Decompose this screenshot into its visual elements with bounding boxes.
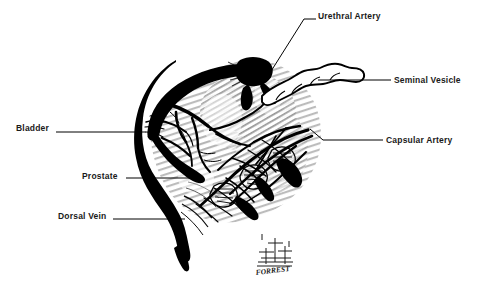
artist-signature-logo [257,234,293,266]
label-urethral-artery: Urethral Artery [318,12,381,21]
label-seminal-vesicle: Seminal Vesicle [394,76,461,85]
label-dorsal-vein: Dorsal Vein [58,212,107,221]
label-bladder: Bladder [16,124,49,133]
label-prostate: Prostate [82,172,118,181]
leader-urethral [268,19,304,76]
label-capsular-artery: Capsular Artery [386,136,452,145]
